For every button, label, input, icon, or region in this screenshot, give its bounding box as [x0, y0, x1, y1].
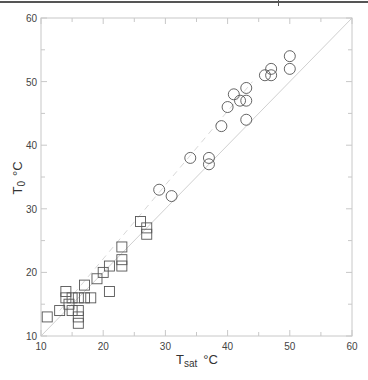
y-tick-label: 30 [26, 204, 38, 215]
y-axis-title-unit: °C [10, 161, 25, 176]
square-marker [86, 293, 96, 303]
x-tick-label: 50 [284, 341, 296, 352]
y-tick-label: 10 [26, 331, 38, 342]
square-marker [67, 306, 77, 316]
x-tick-label: 20 [98, 341, 110, 352]
circle-marker [203, 152, 214, 163]
scatter-plot: 102030405060102030405060 Tsat°C T0°C [0, 0, 368, 380]
circle-marker [284, 51, 295, 62]
reference-line-fit [60, 82, 253, 311]
x-axis-title-unit: °C [203, 352, 218, 367]
circle-marker [241, 114, 252, 125]
x-tick-label: 30 [160, 341, 172, 352]
reference-lines [41, 18, 352, 336]
square-marker [73, 318, 83, 328]
square-marker [117, 242, 127, 252]
circle-marker [228, 89, 239, 100]
circle-marker [259, 70, 270, 81]
data-markers [42, 51, 295, 329]
y-axis-title-sub: 0 [16, 181, 27, 187]
x-axis-title-main: T [176, 352, 184, 367]
circle-marker [284, 63, 295, 74]
square-marker [73, 306, 83, 316]
square-marker [136, 217, 146, 227]
circle-marker [154, 184, 165, 195]
circle-marker [241, 95, 252, 106]
square-marker [73, 312, 83, 322]
square-marker [142, 229, 152, 239]
square-marker [61, 293, 71, 303]
x-tick-label: 40 [222, 341, 234, 352]
square-marker [117, 255, 127, 265]
circle-marker [216, 121, 227, 132]
y-tick-label: 40 [26, 140, 38, 151]
y-axis-title: T0°C [10, 161, 27, 194]
y-tick-label: 20 [26, 267, 38, 278]
square-marker [42, 312, 52, 322]
reference-line-yx [41, 18, 352, 336]
y-axis-title-main: T [10, 187, 25, 195]
y-tick-label: 60 [26, 13, 38, 24]
x-tick-label: 10 [35, 341, 47, 352]
square-marker [80, 293, 90, 303]
circle-marker [266, 63, 277, 74]
circle-marker [166, 191, 177, 202]
square-marker [67, 293, 77, 303]
square-marker [104, 286, 114, 296]
square-marker [61, 286, 71, 296]
square-marker [117, 261, 127, 271]
circle-marker [185, 152, 196, 163]
circle-marker [266, 70, 277, 81]
circle-marker [241, 82, 252, 93]
x-tick-label: 60 [346, 341, 358, 352]
y-tick-label: 50 [26, 77, 38, 88]
x-axis-title-sub: sat [184, 358, 198, 369]
x-axis-title: Tsat°C [176, 352, 218, 369]
